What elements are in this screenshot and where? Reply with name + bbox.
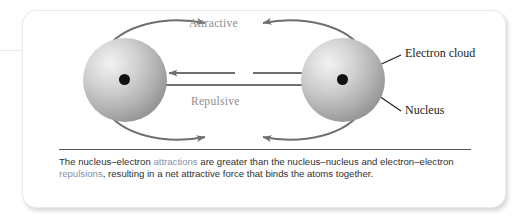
caption-highlight-attractions: attractions bbox=[153, 156, 197, 167]
label-electron-cloud: Electron cloud bbox=[405, 46, 475, 61]
figure-panel: Attractive Repulsive Electron cloud Nucl… bbox=[22, 10, 506, 208]
caption-segment-2: are greater than the nucleus–nucleus and… bbox=[198, 156, 454, 167]
label-attractive: Attractive bbox=[189, 17, 238, 29]
label-nucleus: Nucleus bbox=[405, 103, 444, 118]
nucleus-right bbox=[337, 74, 348, 85]
caption-segment-3: , resulting in a net attractive force th… bbox=[103, 168, 373, 179]
caption-divider bbox=[59, 149, 471, 150]
bonding-diagram: Attractive Repulsive Electron cloud Nucl… bbox=[23, 11, 505, 149]
caption-highlight-repulsions: repulsions bbox=[59, 168, 103, 179]
nucleus-left bbox=[119, 74, 130, 85]
caption-segment-1: The nucleus–electron bbox=[59, 156, 153, 167]
figure-caption: The nucleus–electron attractions are gre… bbox=[59, 149, 471, 179]
label-repulsive: Repulsive bbox=[191, 95, 240, 107]
caption-text: The nucleus–electron attractions are gre… bbox=[59, 156, 471, 179]
